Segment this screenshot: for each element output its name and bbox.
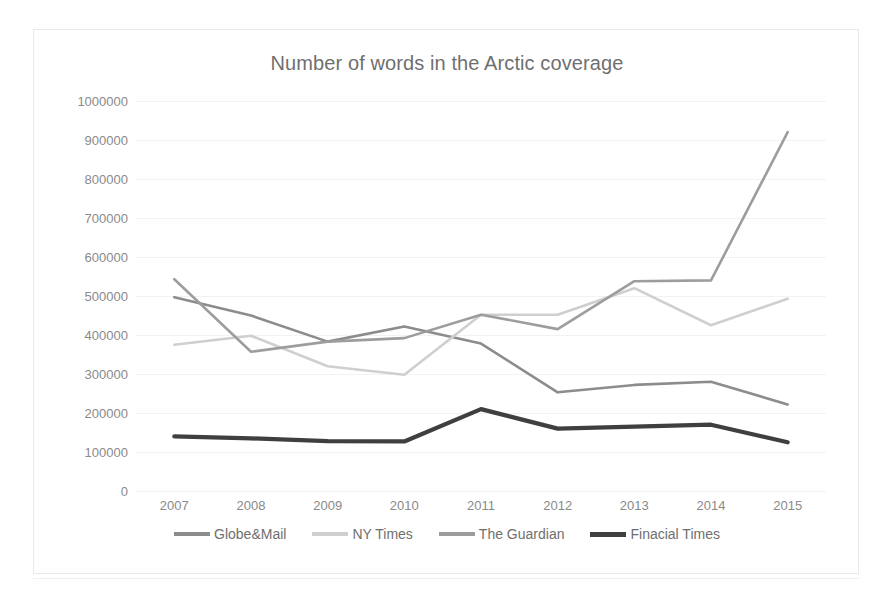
y-tick-label: 200000 <box>85 406 128 421</box>
plot-area <box>136 101 826 491</box>
chart-legend: Globe&MailNY TimesThe GuardianFinacial T… <box>34 526 860 542</box>
y-tick-label: 0 <box>121 484 128 499</box>
legend-entry[interactable]: Globe&Mail <box>174 526 286 542</box>
page-bottom-rule <box>33 578 859 579</box>
legend-swatch-icon <box>174 532 210 536</box>
x-axis-labels: 200720082009201020112012201320142015 <box>136 498 826 524</box>
x-tick-label: 2007 <box>160 498 189 513</box>
x-tick-label: 2012 <box>543 498 572 513</box>
y-axis-labels: 1000000900000800000700000600000500000400… <box>42 101 128 491</box>
y-tick-label: 300000 <box>85 367 128 382</box>
y-tick-label: 800000 <box>85 172 128 187</box>
legend-swatch-icon <box>312 532 348 536</box>
x-tick-label: 2015 <box>773 498 802 513</box>
y-tick-label: 1000000 <box>77 94 128 109</box>
legend-swatch-icon <box>590 532 626 537</box>
series-line <box>174 409 787 442</box>
x-tick-label: 2009 <box>313 498 342 513</box>
legend-label: Finacial Times <box>630 526 719 542</box>
y-tick-label: 900000 <box>85 133 128 148</box>
y-tick-label: 500000 <box>85 289 128 304</box>
legend-entry[interactable]: The Guardian <box>439 526 565 542</box>
legend-entry[interactable]: Finacial Times <box>590 526 719 542</box>
legend-label: The Guardian <box>479 526 565 542</box>
gridline <box>136 491 826 492</box>
y-tick-label: 700000 <box>85 211 128 226</box>
x-tick-label: 2011 <box>467 498 495 513</box>
x-tick-label: 2014 <box>697 498 726 513</box>
series-line <box>174 288 787 375</box>
legend-label: NY Times <box>352 526 412 542</box>
series-lines <box>136 101 826 491</box>
y-tick-label: 100000 <box>85 445 128 460</box>
chart-title: Number of words in the Arctic coverage <box>34 52 860 75</box>
legend-entry[interactable]: NY Times <box>312 526 412 542</box>
legend-label: Globe&Mail <box>214 526 286 542</box>
y-tick-label: 400000 <box>85 328 128 343</box>
legend-swatch-icon <box>439 532 475 536</box>
x-tick-label: 2013 <box>620 498 649 513</box>
x-tick-label: 2008 <box>237 498 266 513</box>
chart-card: Number of words in the Arctic coverage 1… <box>33 29 859 574</box>
y-tick-label: 600000 <box>85 250 128 265</box>
x-tick-label: 2010 <box>390 498 419 513</box>
